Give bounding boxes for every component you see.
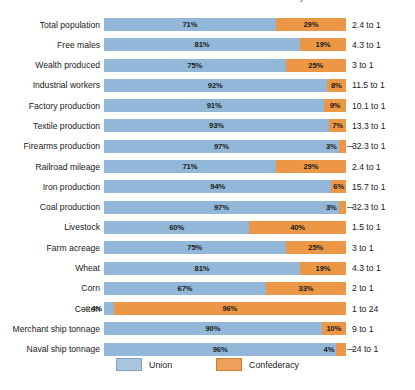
bar-segment-confederacy-value: 25% — [308, 243, 323, 252]
bar-segment-confederacy: 29% — [276, 18, 346, 31]
bar-segment-union: 71% — [104, 160, 276, 173]
stacked-bar: 4%96% — [104, 302, 346, 315]
stacked-bar: 67%33% — [104, 282, 346, 295]
bar-segment-confederacy: 10% — [322, 322, 346, 335]
bar-segment-union: 71% — [104, 18, 276, 31]
stacked-bar: 93%7% — [104, 119, 346, 132]
bar-segment-confederacy: 19% — [300, 262, 346, 275]
bar-segment-union: 81% — [104, 38, 300, 51]
row-ratio-annotation: 3 to 1 — [346, 60, 374, 70]
bar-segment-confederacy: 40% — [249, 221, 346, 234]
stacked-bar: 75%25% — [104, 59, 346, 72]
bar-segment-confederacy-value: 7% — [332, 121, 343, 130]
bar-segment-union-value: 81% — [195, 264, 210, 273]
chart-row: Iron production94%6%15.7 to 1 — [0, 179, 415, 194]
bar-segment-union-value: 97% — [214, 142, 229, 151]
bar-segment-union: 96% — [104, 343, 336, 356]
row-ratio-annotation: 2 to 1 — [346, 283, 374, 293]
leader-line-icon — [347, 146, 354, 147]
bar-segment-confederacy-value: 29% — [303, 20, 318, 29]
leader-line-icon — [82, 309, 89, 310]
bar-segment-confederacy: 6% — [331, 180, 346, 193]
chart-row: Merchant ship tonnage90%10%9 to 1 — [0, 321, 415, 336]
stacked-bar: 75%25% — [104, 241, 346, 254]
bar-segment-union: 75% — [104, 59, 286, 72]
bar-segment-union: 90% — [104, 322, 322, 335]
bar-segment-confederacy-value: 8% — [331, 81, 342, 90]
row-category-label: Free males — [0, 40, 104, 50]
row-ratio-annotation: 1 to 24 — [346, 304, 378, 314]
bar-segment-union-value: 93% — [209, 121, 224, 130]
row-category-label: Wealth produced — [0, 60, 104, 70]
leader-line-icon — [347, 349, 354, 350]
bar-segment-union: 60% — [104, 221, 249, 234]
chart-row: Wheat81%19%4.3 to 1 — [0, 261, 415, 276]
legend-item-union: Union — [116, 358, 172, 371]
bar-segment-union: 4% — [104, 302, 114, 315]
chart-row: Factory production91%9%10.1 to 1 — [0, 98, 415, 113]
bar-rows-container: Total population71%29%2.4 to 1Free males… — [0, 17, 415, 362]
bar-segment-confederacy-value: 3% — [326, 142, 337, 151]
bar-segment-confederacy: 25% — [286, 241, 347, 254]
chart-row: Coal production97%3%32.3 to 1 — [0, 200, 415, 215]
chart-row: Cotton4%96%1 to 24 — [0, 301, 415, 316]
row-ratio-annotation: 2.4 to 1 — [346, 20, 381, 30]
chart-row: Livestock60%40%1.5 to 1 — [0, 220, 415, 235]
row-category-label: Naval ship tonnage — [0, 344, 104, 354]
chart-title-clipped: Resources of the Union and the Confedera… — [0, 0, 415, 5]
bar-segment-confederacy-value: 96% — [222, 304, 237, 313]
bar-segment-union-value: 81% — [195, 40, 210, 49]
stacked-bar: 94%6% — [104, 180, 346, 193]
bar-segment-confederacy: 96% — [114, 302, 346, 315]
chart-legend: Union Confederacy — [0, 358, 415, 371]
bar-segment-union-value: 91% — [207, 101, 222, 110]
chart-row: Railroad mileage71%29%2.4 to 1 — [0, 159, 415, 174]
bar-segment-confederacy-value: 4% — [324, 345, 335, 354]
chart-row: Total population71%29%2.4 to 1 — [0, 17, 415, 32]
bar-segment-union: 94% — [104, 180, 331, 193]
bar-segment-confederacy-value: 40% — [290, 223, 305, 232]
row-category-label: Wheat — [0, 263, 104, 273]
row-category-label: Industrial workers — [0, 80, 104, 90]
row-ratio-annotation: 4.3 to 1 — [346, 40, 381, 50]
chart-row: Corn67%33%2 to 1 — [0, 281, 415, 296]
bar-segment-union-value: 97% — [214, 203, 229, 212]
stacked-bar: 71%29% — [104, 160, 346, 173]
bar-segment-confederacy: 9% — [324, 99, 346, 112]
bar-segment-confederacy-value: 19% — [316, 40, 331, 49]
stacked-bar: 92%8% — [104, 79, 346, 92]
bar-segment-union-value: 90% — [205, 324, 220, 333]
bar-segment-confederacy: 8% — [327, 79, 346, 92]
bar-segment-union-value: 71% — [182, 162, 197, 171]
row-category-label: Livestock — [0, 222, 104, 232]
leader-line-icon — [347, 207, 354, 208]
bar-segment-confederacy-value: 9% — [330, 101, 341, 110]
bar-segment-confederacy: 4% — [336, 343, 346, 356]
bar-segment-union-value: 94% — [210, 182, 225, 191]
bar-segment-confederacy-value: 10% — [326, 324, 341, 333]
bar-segment-union: 93% — [104, 119, 329, 132]
bar-segment-union-value: 96% — [213, 345, 228, 354]
bar-segment-confederacy-value: 19% — [316, 264, 331, 273]
bar-segment-union: 81% — [104, 262, 300, 275]
chart-row: Wealth produced75%25%3 to 1 — [0, 58, 415, 73]
row-ratio-annotation: 3 to 1 — [346, 243, 374, 253]
row-ratio-annotation: 11.5 to 1 — [346, 80, 385, 90]
row-category-label: Coal production — [0, 202, 104, 212]
legend-label-union: Union — [149, 360, 172, 370]
row-ratio-annotation: 9 to 1 — [346, 324, 374, 334]
row-category-label: Total population — [0, 20, 104, 30]
stacked-bar: 60%40% — [104, 221, 346, 234]
stacked-bar: 91%9% — [104, 99, 346, 112]
bar-segment-confederacy: 7% — [329, 119, 346, 132]
row-category-label: Farm acreage — [0, 243, 104, 253]
bar-segment-confederacy: 25% — [286, 59, 347, 72]
bar-segment-confederacy: 3% — [339, 140, 346, 153]
stacked-bar: 97%3% — [104, 201, 346, 214]
stacked-bar: 96%4% — [104, 343, 346, 356]
bar-segment-union-value: 4% — [91, 304, 102, 313]
bar-segment-confederacy: 3% — [339, 201, 346, 214]
chart-row: Textile production93%7%13.3 to 1 — [0, 118, 415, 133]
bar-segment-union: 91% — [104, 99, 324, 112]
stacked-bar: 97%3% — [104, 140, 346, 153]
